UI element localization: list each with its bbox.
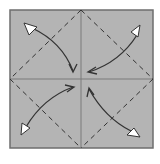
origami-diagram [0,0,160,164]
